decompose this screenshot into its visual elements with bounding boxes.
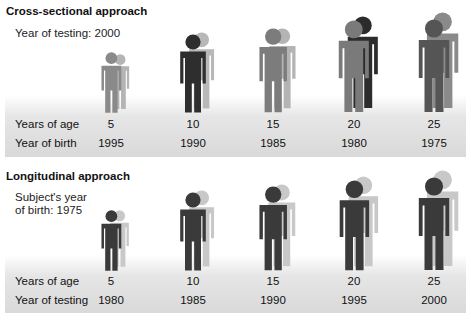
- cs-age-20: 20: [324, 118, 384, 130]
- lg-front-person-icon-15: [256, 186, 290, 276]
- lg-year-25: 2000: [404, 294, 464, 306]
- cs-age-10: 10: [163, 118, 223, 130]
- cs-front-person-icon-20: [335, 20, 373, 118]
- longitudinal-subtitle-line2: of birth: 1975: [15, 204, 82, 217]
- cs-age-15: 15: [243, 118, 303, 130]
- cs-front-person-icon-10: [177, 34, 209, 118]
- lg-front-person-icon-25: [415, 177, 453, 276]
- cs-front-person-icon-5: [99, 52, 124, 118]
- lg-age-20: 20: [324, 275, 384, 287]
- lg-year-10: 1985: [163, 294, 223, 306]
- cs-age-25: 25: [404, 118, 464, 130]
- longitudinal-section: Longitudinal approach Subject's year of …: [0, 160, 471, 320]
- lg-year-15: 1990: [243, 294, 303, 306]
- lg-age-5: 5: [81, 275, 141, 287]
- lg-age-10: 10: [163, 275, 223, 287]
- lg-age-15: 15: [243, 275, 303, 287]
- longitudinal-subtitle-line1: Subject's year: [15, 191, 87, 204]
- cs-year-10: 1990: [163, 137, 223, 149]
- cs-year-25: 1975: [404, 137, 464, 149]
- cs-year-20: 1980: [324, 137, 384, 149]
- cross-sectional-subtitle: Year of testing: 2000: [15, 27, 120, 40]
- cs-front-person-icon-25: [415, 19, 453, 118]
- lg-year-20: 1995: [324, 294, 384, 306]
- lg-front-person-icon-5: [99, 210, 124, 276]
- cross-sectional-section: Cross-sectional approach Year of testing…: [0, 0, 471, 160]
- lg-front-person-icon-10: [177, 192, 209, 276]
- cs-year-15: 1985: [243, 137, 303, 149]
- longitudinal-row2-label: Year of testing: [15, 294, 88, 306]
- lg-age-25: 25: [404, 275, 464, 287]
- cs-year-5: 1995: [81, 137, 141, 149]
- lg-front-person-icon-20: [336, 180, 373, 276]
- cross-sectional-row2-label: Year of birth: [15, 137, 77, 149]
- longitudinal-title: Longitudinal approach: [6, 170, 130, 182]
- cross-sectional-row1-label: Years of age: [15, 118, 79, 130]
- cs-age-5: 5: [81, 118, 141, 130]
- longitudinal-row1-label: Years of age: [15, 275, 79, 287]
- cross-sectional-title: Cross-sectional approach: [6, 5, 147, 17]
- lg-year-5: 1980: [81, 294, 141, 306]
- cs-front-person-icon-15: [256, 28, 290, 118]
